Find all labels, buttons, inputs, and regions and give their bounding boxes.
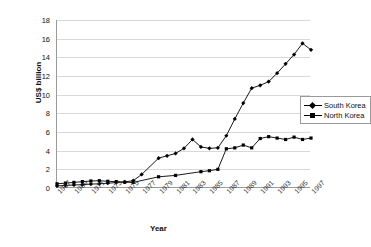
data-point xyxy=(233,117,237,121)
data-point xyxy=(208,169,211,172)
y-tick-label: 4 xyxy=(46,146,50,155)
series-line xyxy=(57,43,311,186)
data-point xyxy=(258,83,262,87)
series-north-korea xyxy=(55,135,312,185)
data-point xyxy=(250,86,254,90)
y-tick-label: 0 xyxy=(46,184,50,193)
x-axis-ticks: 1967196919711973197519771979198119831985… xyxy=(56,190,310,224)
series-line xyxy=(57,137,311,184)
legend-item-north-korea[interactable]: North Korea xyxy=(304,110,366,120)
data-point xyxy=(233,146,236,149)
data-point xyxy=(301,138,304,141)
data-point xyxy=(276,136,279,139)
series-layer xyxy=(57,20,311,188)
y-tick-label: 18 xyxy=(42,16,50,25)
data-point xyxy=(173,151,177,155)
data-point xyxy=(225,147,228,150)
y-tick-label: 14 xyxy=(42,53,50,62)
data-point xyxy=(309,136,312,139)
data-point xyxy=(259,137,262,140)
plot-area xyxy=(56,20,310,188)
chart-legend: South KoreaNorth Korea xyxy=(300,96,371,124)
legend-marker-icon xyxy=(304,111,322,119)
data-point xyxy=(106,180,109,183)
x-axis-title: Year xyxy=(150,224,230,233)
y-tick-label: 10 xyxy=(42,90,50,99)
data-point xyxy=(207,146,211,150)
data-point xyxy=(250,146,253,149)
data-point xyxy=(89,182,93,186)
y-tick-label: 12 xyxy=(42,72,50,81)
data-point xyxy=(123,181,126,184)
data-point xyxy=(216,168,219,171)
data-point xyxy=(242,143,245,146)
legend-label: North Korea xyxy=(324,111,364,120)
data-point xyxy=(267,135,270,138)
legend-label: South Korea xyxy=(324,101,366,110)
legend-item-south-korea[interactable]: South Korea xyxy=(304,100,366,110)
data-point xyxy=(55,182,58,185)
y-tick-label: 6 xyxy=(46,128,50,137)
data-point xyxy=(157,175,160,178)
x-tick-label: 1997 xyxy=(310,179,326,195)
data-point xyxy=(72,181,75,184)
data-point xyxy=(284,138,287,141)
data-point xyxy=(174,174,177,177)
data-point xyxy=(241,101,245,105)
data-point xyxy=(292,136,295,139)
y-tick-label: 2 xyxy=(46,165,50,174)
data-point xyxy=(165,154,169,158)
y-axis-ticks: 024681012141618 xyxy=(0,0,56,188)
data-point xyxy=(199,170,202,173)
series-south-korea xyxy=(55,41,313,188)
y-tick-label: 16 xyxy=(42,34,50,43)
data-point xyxy=(89,179,92,182)
legend-marker-icon xyxy=(304,101,322,109)
y-tick-label: 8 xyxy=(46,109,50,118)
